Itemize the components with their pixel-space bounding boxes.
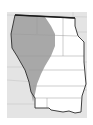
great-plains-map bbox=[7, 12, 87, 118]
map-frame bbox=[7, 12, 87, 118]
